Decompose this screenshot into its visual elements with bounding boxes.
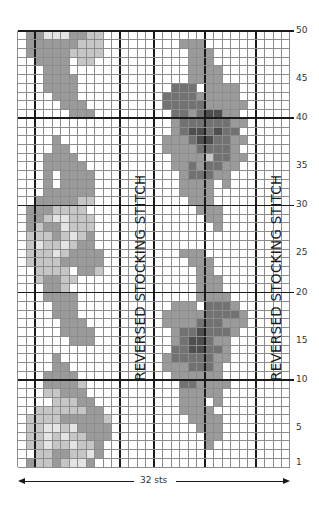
grid-line [18,388,290,389]
grid-line [18,83,290,84]
grid-line-major [18,292,294,294]
grid-line [18,57,290,58]
grid-line [18,257,290,258]
arrow-right-icon [283,478,290,484]
knitting-chart-grid [18,31,290,467]
stitch-count-label: 32 sts [140,475,167,485]
grid-line [18,371,290,372]
annotation-reversed-stocking-stitch-left: REVERSED STOCKING STITCH [132,175,148,381]
row-number-label: 5 [296,423,302,432]
grid-line [18,100,290,101]
grid-line [18,345,290,346]
grid-line [18,48,290,49]
grid-line [18,222,290,223]
arrow-line-right [176,481,286,482]
arrow-line-left [22,481,134,482]
grid-line [18,266,290,267]
grid-line [18,301,290,302]
grid-line [18,153,290,154]
grid-line [18,92,290,93]
grid-line [18,196,290,197]
grid-line [18,65,290,66]
grid-line [18,74,290,75]
grid-line [18,249,290,250]
grid-line [18,170,290,171]
grid-line [18,135,290,136]
grid-line [18,240,290,241]
grid-line [18,423,290,424]
row-number-label: 15 [296,336,307,345]
row-number-label: 40 [296,113,307,122]
grid-line [18,397,290,398]
grid-line [18,327,290,328]
grid-line [18,310,290,311]
grid-line [18,144,290,145]
grid-line-major [18,205,294,207]
width-indicator: 32 sts [18,475,290,489]
grid-line [18,275,290,276]
row-number-label: 45 [296,74,307,83]
row-number-label: 10 [296,375,307,384]
row-number-label: 50 [296,26,307,35]
grid-line [18,414,290,415]
grid-line-major [18,30,294,32]
row-number-label: 35 [296,161,307,170]
grid-line [18,214,290,215]
grid-line [18,449,290,450]
grid-line [18,406,290,407]
grid-line [18,440,290,441]
grid-line [18,353,290,354]
grid-line [18,318,290,319]
grid-line-major [18,379,294,381]
row-number-label: 25 [296,248,307,257]
grid-line [18,432,290,433]
grid-line [18,127,290,128]
grid-line [18,161,290,162]
grid-line [18,39,290,40]
grid-line-major [18,117,294,119]
grid-line [18,362,290,363]
annotation-reversed-stocking-stitch-right: REVERSED STOCKING STITCH [268,175,284,381]
grid-line [18,336,290,337]
grid-line [18,283,290,284]
grid-line [18,231,290,232]
grid-line [18,188,290,189]
row-number-label: 20 [296,288,307,297]
grid-line [18,467,290,468]
row-number-label: 30 [296,200,307,209]
row-number-label: 1 [296,458,302,467]
grid-line [18,109,290,110]
grid-line [18,458,290,459]
grid-line [18,179,290,180]
